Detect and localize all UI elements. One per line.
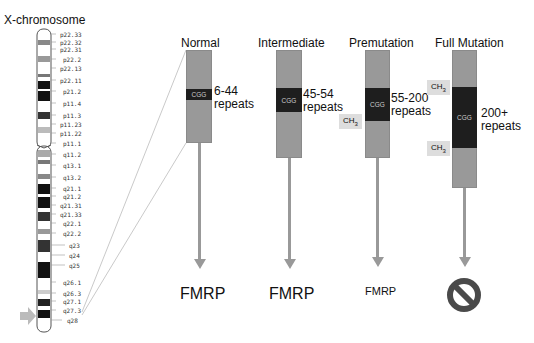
repeats-label-premutation: 55-200 repeats xyxy=(391,92,431,118)
band-label: p11.1 xyxy=(63,140,81,147)
cgg-region-intermediate: CGG xyxy=(276,88,302,112)
band-label: q23 xyxy=(69,242,80,249)
product-label-premutation: FMRP xyxy=(365,285,396,297)
column-title-intermediate: Intermediate xyxy=(258,36,325,50)
band-label: q13.2 xyxy=(63,174,81,181)
band-label: p22.33 xyxy=(60,31,82,38)
band-label: q27.1 xyxy=(63,298,81,305)
band-label: p11.22 xyxy=(60,130,82,137)
repeats-label-full-mutation: 200+ repeats xyxy=(481,107,521,133)
band-label: p22.31 xyxy=(60,46,82,53)
product-label-intermediate: FMRP xyxy=(269,285,314,303)
band-label: q22.2 xyxy=(63,230,81,237)
band-label: q11.2 xyxy=(63,151,81,158)
column-title-normal: Normal xyxy=(181,36,220,50)
product-label-normal: FMRP xyxy=(180,285,225,303)
cgg-region-premutation: CGG xyxy=(365,88,390,121)
band-label: q28 xyxy=(67,317,78,324)
methyl-tag: CH3 xyxy=(339,114,362,129)
arrow-right-icon xyxy=(20,307,36,325)
repeats-label-normal: 6-44 repeats xyxy=(214,85,254,111)
band-label: p11.23 xyxy=(60,121,82,128)
band-label: p11.4 xyxy=(63,100,81,107)
arrow-shaft xyxy=(198,143,201,260)
band-label: q21.33 xyxy=(60,211,82,218)
arrow-shaft xyxy=(376,158,379,258)
band-label: p22.13 xyxy=(60,65,82,72)
band-label: q26.1 xyxy=(63,279,81,286)
band-label: q22.1 xyxy=(63,220,81,227)
band-label: q13.1 xyxy=(63,162,81,169)
methyl-tag: CH3 xyxy=(427,80,450,95)
arrow-shaft xyxy=(288,158,291,260)
repeats-label-intermediate: 45-54 repeats xyxy=(303,88,343,114)
band-label: p22.11 xyxy=(60,77,82,84)
column-title-full-mutation: Full Mutation xyxy=(435,36,504,50)
arrow-down-icon xyxy=(372,257,384,267)
cgg-region-normal: CGG xyxy=(186,89,212,100)
band-label: p22.32 xyxy=(60,39,82,46)
arrow-down-icon xyxy=(194,259,206,269)
band-label: q21.31 xyxy=(60,202,82,209)
band-label: q25 xyxy=(69,262,80,269)
band-label: q24 xyxy=(69,252,80,259)
band-label: p21.2 xyxy=(63,88,81,95)
band-label: q27.3 xyxy=(63,307,81,314)
no-symbol-icon xyxy=(446,277,482,313)
band-label: p22.2 xyxy=(63,56,81,63)
arrow-down-icon xyxy=(284,259,296,269)
arrow-down-icon xyxy=(459,257,471,267)
band-label: p11.3 xyxy=(63,112,81,119)
band-label: q21.1 xyxy=(63,185,81,192)
band-label: q26.3 xyxy=(63,290,81,297)
band-label: q21.2 xyxy=(63,193,81,200)
column-title-premutation: Premutation xyxy=(349,36,414,50)
cgg-region-full-mutation: CGG xyxy=(452,87,477,148)
methyl-tag: CH3 xyxy=(427,141,450,156)
arrow-shaft xyxy=(463,188,466,258)
